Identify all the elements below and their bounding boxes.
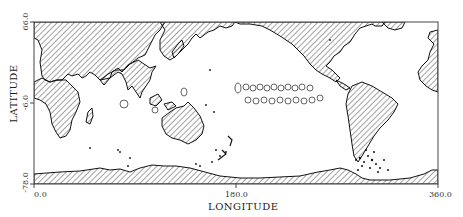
land-masses [34, 22, 438, 184]
x-tick-label-right: 360.0 [429, 190, 452, 199]
land-europe-africa-east [418, 30, 438, 92]
land-indonesia [150, 94, 176, 110]
y-tick-label-bottom: -78.0 [21, 170, 30, 196]
land-north-asia [160, 22, 235, 60]
world-map-plot [0, 0, 463, 217]
land-madagascar [86, 108, 93, 124]
land-antarctica [34, 165, 438, 184]
x-tick-label-mid: 180.0 [225, 190, 248, 199]
land-greenland [382, 22, 405, 30]
y-tick-label-top: 66.0 [21, 11, 30, 33]
x-tick-label-left: 0.0 [34, 190, 47, 199]
land-africa [34, 78, 80, 138]
land-north-america [235, 22, 385, 82]
y-axis-title: LATITUDE [8, 64, 19, 124]
x-axis-title: LONGITUDE [208, 201, 278, 212]
land-central-america [336, 80, 350, 90]
y-tick-label-mid: -6.0 [21, 92, 30, 114]
land-south-america [346, 82, 398, 162]
